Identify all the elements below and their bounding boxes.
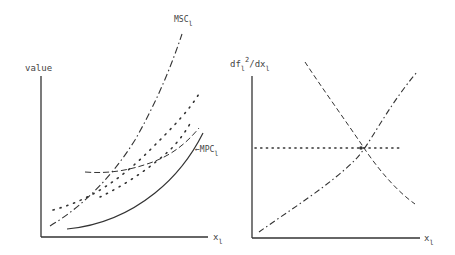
msc-curve <box>50 34 182 226</box>
decreasing-dashed-curve <box>305 62 415 204</box>
dotted-curve-upper <box>53 92 200 210</box>
right-panel: dfl2/dxl xl <box>230 56 434 247</box>
msc-label: MSCl <box>174 15 193 28</box>
mpc-curve <box>67 133 203 229</box>
left-panel: value xl MSCl ←MPCl <box>25 15 223 246</box>
left-y-label: value <box>25 63 52 73</box>
increasing-dashdot-curve <box>259 72 417 232</box>
mpc-label: ←MPCl <box>195 145 218 158</box>
left-x-label: xl <box>213 232 223 246</box>
intersection-point <box>359 146 363 150</box>
right-x-label: xl <box>424 233 434 247</box>
figure: value xl MSCl ←MPCl dfl2/dxl xl <box>0 0 455 255</box>
dotted-curve-lower <box>100 120 192 197</box>
right-y-label: dfl2/dxl <box>230 56 270 73</box>
